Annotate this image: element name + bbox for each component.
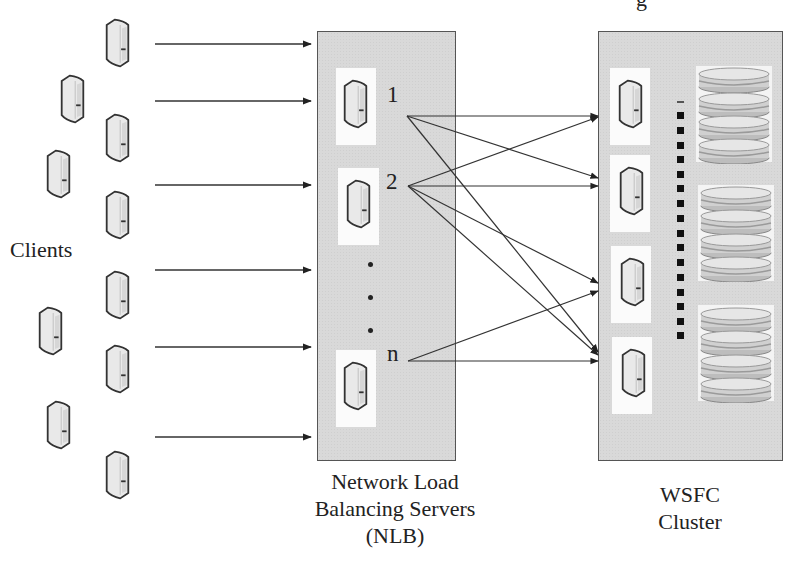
nlb-label: Network Load Balancing Servers (NLB): [290, 468, 500, 549]
nlb-label-line-1: Network Load: [290, 468, 500, 495]
client-server-icon: [107, 115, 129, 162]
client-server-icon: [62, 76, 84, 123]
client-server-icon: [40, 308, 62, 355]
client-server-icon: [48, 402, 70, 449]
client-server-icon: [107, 452, 129, 499]
nlb-label-line-2: Balancing Servers: [290, 495, 500, 522]
wsfc-label-line-2: Cluster: [620, 508, 760, 535]
wsfc-server-icon: [623, 350, 645, 397]
client-server-icon: [48, 151, 70, 198]
clients-label: Clients: [10, 236, 90, 263]
client-server-icon: [107, 20, 129, 67]
nlb-server-icon: [348, 181, 370, 228]
wsfc-label: WSFC Cluster: [620, 481, 760, 535]
wsfc-server-icon: [621, 168, 643, 215]
wsfc-server-icon: [622, 259, 644, 306]
nlb-node-2-label: 2: [386, 169, 398, 195]
nlb-node-1-label: 1: [387, 82, 399, 108]
nlb-node-n-label: n: [387, 341, 399, 367]
nlb-server-icon: [345, 81, 367, 128]
wsfc-label-line-1: WSFC: [620, 481, 760, 508]
client-server-icon: [107, 272, 129, 319]
client-to-nlb-arrows: [155, 44, 311, 437]
ellipsis-dot: [368, 262, 373, 267]
nlb-to-wsfc-arrows: [407, 116, 598, 361]
ellipsis-dot: [368, 328, 373, 333]
wsfc-server-icon: [620, 81, 642, 128]
ellipsis-dot: [368, 295, 373, 300]
storage-disk-icons: [699, 68, 771, 403]
nlb-label-line-3: (NLB): [290, 522, 500, 549]
client-server-icon: [107, 346, 129, 393]
nlb-server-icon: [345, 363, 367, 410]
client-server-icon: [107, 192, 129, 239]
